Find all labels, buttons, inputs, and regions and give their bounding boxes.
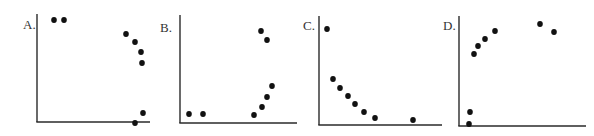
data-point [61, 17, 67, 23]
panel-d-label: D. [443, 19, 456, 32]
panel-c-label: C. [303, 19, 315, 32]
data-point [337, 85, 343, 91]
data-point [551, 29, 557, 35]
data-point [372, 115, 378, 121]
data-point [324, 26, 330, 32]
panel-b-label: B. [160, 21, 172, 34]
data-point [475, 43, 481, 49]
data-point [330, 76, 336, 82]
data-point [345, 93, 351, 99]
panel-c [318, 16, 442, 125]
data-point [264, 94, 270, 100]
data-point [492, 28, 498, 34]
data-point [352, 101, 358, 107]
data-point [132, 120, 138, 126]
data-point [467, 109, 473, 115]
data-point [410, 117, 416, 123]
data-point [482, 36, 488, 42]
data-point [51, 17, 57, 23]
data-point [251, 112, 257, 118]
data-point [466, 121, 472, 127]
data-point [471, 51, 477, 57]
data-point [264, 37, 270, 43]
data-point [132, 39, 138, 45]
data-point [138, 49, 144, 55]
panel-a [36, 14, 150, 126]
panel-d [458, 16, 586, 127]
panel-a-label: A. [23, 18, 36, 31]
data-point [140, 110, 146, 116]
scatter-plots-figure [0, 0, 594, 136]
data-point [361, 109, 367, 115]
data-point [258, 28, 264, 34]
data-point [269, 83, 275, 89]
data-point [123, 31, 129, 37]
panel-b [179, 15, 297, 123]
data-point [139, 60, 145, 66]
data-point [259, 104, 265, 110]
data-point [200, 111, 206, 117]
data-point [186, 111, 192, 117]
data-point [537, 21, 543, 27]
